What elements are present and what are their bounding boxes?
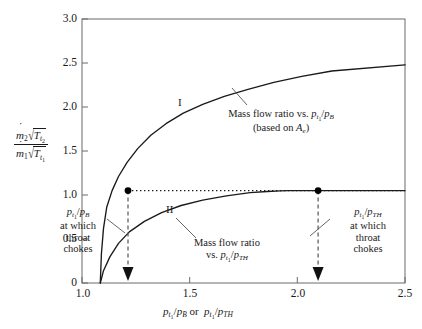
annotation-left-choke-line2: at which bbox=[60, 220, 96, 231]
annotation-curve-II-line2-prefix: vs. bbox=[206, 249, 218, 260]
annotation-left-choke-line4: chokes bbox=[63, 243, 92, 254]
x-tick-label-1_5: 1.5 bbox=[178, 287, 202, 300]
annotation-right-choke-line4: chokes bbox=[353, 243, 382, 254]
x-tick-label-1_0: 1.0 bbox=[71, 287, 95, 300]
annotation-right-choke-line3: throat bbox=[356, 232, 381, 243]
drop-line-left bbox=[123, 191, 134, 281]
y-tick-label-2_5: 2.5 bbox=[44, 56, 77, 69]
annotation-curve-II-line1: Mass flow ratio bbox=[194, 237, 260, 248]
annotation-left-choke-line3: throat bbox=[66, 232, 91, 243]
x-axis-label: pt1/pB or pt1/pTH bbox=[163, 305, 233, 320]
curve-label-I: I bbox=[178, 96, 182, 108]
annotation-curve-I-line1: Mass flow ratio vs. bbox=[228, 108, 309, 119]
drop-line-right bbox=[313, 191, 324, 281]
annotation-curve-I-line2-end: ) bbox=[306, 122, 310, 133]
choke-marker-right bbox=[315, 187, 322, 194]
y-tick-label-1_0: 1.0 bbox=[44, 188, 77, 201]
y-axis-label: m2√Tt2 m1√Tt1 bbox=[8, 128, 54, 163]
x-axis-or-word: or bbox=[189, 305, 198, 317]
y-tick-label-3_0: 3.0 bbox=[44, 12, 77, 25]
annotation-curve-I: Mass flow ratio vs. pt1/pB (based on Ae) bbox=[196, 108, 366, 135]
figure-container: 0 0.5 1.0 1.5 2.0 2.5 3.0 1.0 1.5 2.0 2.… bbox=[0, 0, 422, 329]
choke-marker-left bbox=[125, 187, 132, 194]
curve-label-II: II bbox=[166, 203, 173, 215]
x-tick-label-2_0: 2.0 bbox=[286, 287, 310, 300]
mdot1-symbol: m bbox=[16, 147, 24, 159]
annotation-right-choke: pt1/pTH at which throat chokes bbox=[332, 206, 404, 255]
y-tick-label-2_0: 2.0 bbox=[44, 100, 77, 113]
x-tick-label-2_5: 2.5 bbox=[393, 287, 417, 300]
annotation-curve-II: Mass flow ratio vs. pt1/pTH bbox=[165, 237, 289, 263]
annotation-curve-I-line2: (based on bbox=[253, 122, 294, 133]
annotation-right-choke-line2: at which bbox=[350, 220, 386, 231]
annotation-left-choke: pt1/pB at which throat chokes bbox=[42, 206, 114, 255]
x-axis-ticks bbox=[82, 277, 405, 283]
